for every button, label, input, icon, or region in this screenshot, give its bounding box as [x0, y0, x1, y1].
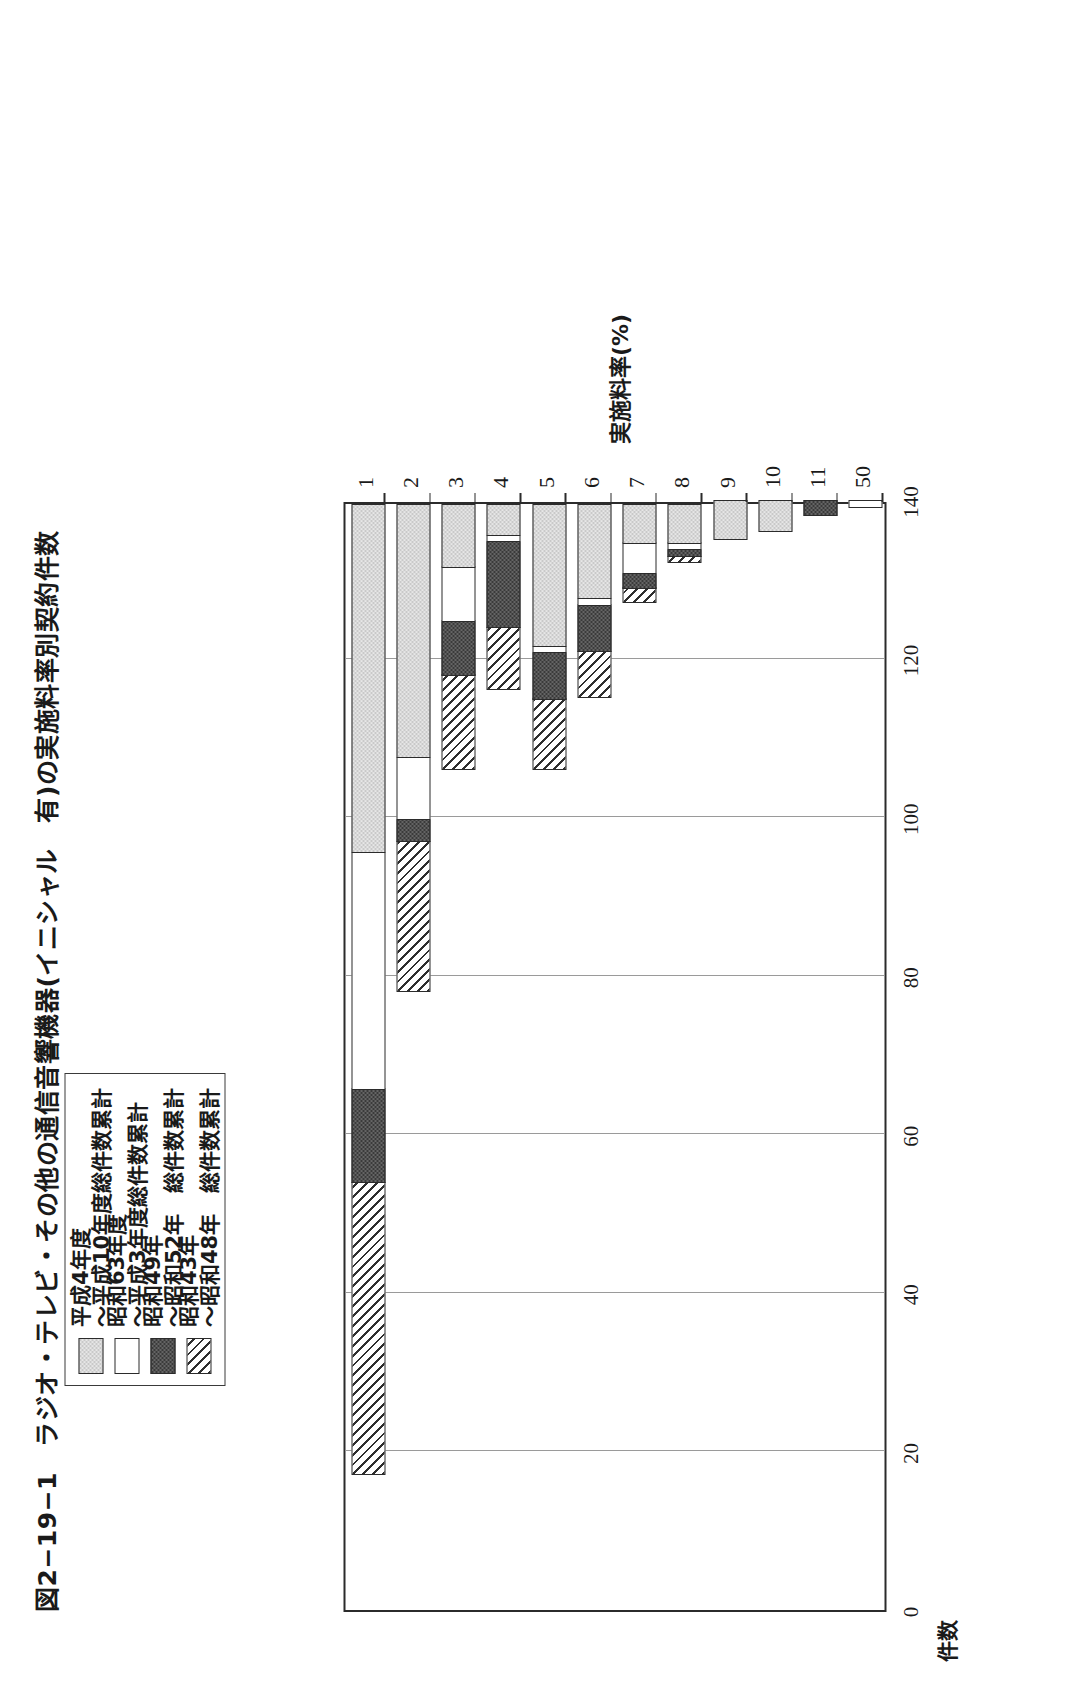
category-axis-tick-mark: [474, 493, 476, 502]
bar-segment: [848, 500, 882, 508]
bar-segment: [713, 500, 747, 540]
bar-series-container: [345, 504, 884, 1610]
value-axis-tick-label: 0: [898, 1596, 923, 1628]
bar-segment: [351, 852, 385, 1090]
bar-segment: [622, 587, 656, 603]
bar-segment: [441, 504, 475, 567]
value-axis-tick-label: 40: [898, 1279, 923, 1311]
bar-segment: [351, 504, 385, 853]
legend-item-label: 昭和43年 〜昭和48年 総件数累計: [178, 1088, 220, 1327]
value-axis-title: 件数: [930, 1620, 960, 1662]
category-axis-tick-label: 11: [804, 448, 830, 488]
bar-segment: [396, 819, 430, 843]
plot-area: [343, 502, 886, 1612]
bar-row: [622, 500, 656, 603]
value-axis-tick-label: 20: [898, 1437, 923, 1469]
category-axis-tick-label: 8: [668, 448, 694, 488]
bar-segment: [441, 620, 475, 676]
bar-row: [667, 500, 701, 563]
bar-row: [577, 500, 611, 698]
bar-segment: [758, 500, 792, 532]
bar-segment: [396, 504, 430, 758]
legend-item: 平成4年度 〜平成10年度総件数累計: [74, 1088, 107, 1374]
bar-segment: [622, 542, 656, 574]
category-axis-tick-mark: [745, 493, 747, 502]
bar-segment: [577, 604, 611, 652]
category-axis-tick-mark: [836, 493, 838, 502]
category-axis-tick-mark: [700, 493, 702, 502]
bar-row: [758, 500, 792, 532]
bar-segment: [486, 627, 520, 690]
legend-item: 昭和49年 〜昭和52年 総件数累計: [146, 1088, 179, 1374]
category-axis-tick-mark: [383, 493, 385, 502]
category-axis-tick-label: 10: [759, 448, 785, 488]
bar-segment: [351, 1182, 385, 1475]
bar-segment: [667, 504, 701, 544]
category-axis-tick-mark: [564, 493, 566, 502]
category-axis-tick-label: 1: [352, 448, 378, 488]
bar-segment: [532, 698, 566, 769]
legend-swatch-light-gray-checker: [78, 1338, 103, 1374]
category-axis-tick-label: 2: [397, 448, 423, 488]
value-axis-tick-label: 80: [898, 962, 923, 994]
legend-swatch-white: [114, 1338, 139, 1374]
bar-segment: [577, 504, 611, 599]
bar-row: [351, 500, 385, 1475]
category-axis-tick-mark: [881, 493, 883, 502]
category-axis-tick-label: 5: [533, 448, 559, 488]
bar-row: [848, 500, 882, 508]
chart-legend: 平成4年度 〜平成10年度総件数累計 昭和63年度 〜平成3年度総件数累計 昭和…: [64, 1073, 225, 1386]
category-axis-tick-label: 7: [623, 448, 649, 488]
bar-row: [486, 500, 520, 690]
bar-row: [441, 500, 475, 770]
legend-swatch-diagonal-hatch: [186, 1338, 211, 1374]
bar-segment: [486, 504, 520, 536]
bar-segment: [803, 500, 837, 516]
category-axis-tick-mark: [610, 493, 612, 502]
category-axis-tick-label: 6: [578, 448, 604, 488]
rotated-figure-stage: 図2−19−1 ラジオ・テレビ・その他の通信音響機器(イニシャル 有)の実施料率…: [0, 0, 1073, 1686]
category-axis-tick-mark: [429, 493, 431, 502]
bar-segment: [351, 1088, 385, 1183]
value-axis-tick-label: 100: [898, 803, 923, 835]
value-axis-tick-label: 60: [898, 1120, 923, 1152]
category-axis-tick-label: 4: [487, 448, 513, 488]
bar-segment: [622, 573, 656, 589]
value-axis-tick-label: 140: [898, 486, 923, 518]
category-axis-tick-label: 50: [849, 448, 875, 488]
legend-swatch-dark-fill: [150, 1338, 175, 1374]
bar-row: [532, 500, 566, 770]
bar-segment: [532, 504, 566, 647]
bar-row: [396, 500, 430, 992]
bar-segment: [622, 504, 656, 544]
bar-row: [713, 500, 747, 540]
bar-segment: [441, 674, 475, 769]
category-axis-tick-mark: [519, 493, 521, 502]
legend-item: 昭和43年 〜昭和48年 総件数累計: [182, 1088, 215, 1374]
category-axis-tick-mark: [655, 493, 657, 502]
bar-segment: [396, 757, 430, 820]
bar-row: [803, 500, 837, 516]
bar-segment: [577, 651, 611, 699]
category-axis-tick-mark: [791, 493, 793, 502]
legend-item: 昭和63年度 〜平成3年度総件数累計: [110, 1088, 143, 1374]
bar-segment: [486, 541, 520, 628]
bar-segment: [532, 652, 566, 700]
bar-segment: [396, 841, 430, 992]
bar-segment: [441, 566, 475, 622]
category-axis-title: 実施料率(%): [601, 314, 633, 444]
figure-title: 図2−19−1 ラジオ・テレビ・その他の通信音響機器(イニシャル 有)の実施料率…: [26, 530, 62, 1612]
value-axis-tick-label: 120: [898, 645, 923, 677]
category-axis-tick-label: 9: [714, 448, 740, 488]
figure-page: 図2−19−1 ラジオ・テレビ・その他の通信音響機器(イニシャル 有)の実施料率…: [0, 0, 1073, 1686]
category-axis-tick-label: 3: [442, 448, 468, 488]
